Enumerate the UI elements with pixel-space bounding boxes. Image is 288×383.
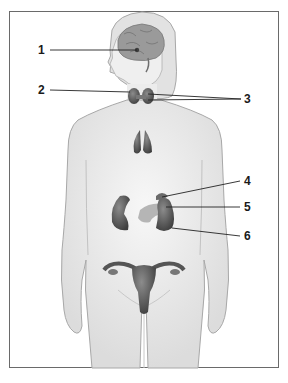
label-5: 5 — [244, 201, 251, 213]
endocrine-figure — [0, 0, 288, 383]
label-3: 3 — [244, 93, 251, 105]
label-1: 1 — [38, 44, 45, 56]
label-6: 6 — [244, 230, 251, 242]
label-4: 4 — [244, 175, 251, 187]
body-silhouette — [61, 12, 228, 368]
label-2: 2 — [38, 84, 45, 96]
